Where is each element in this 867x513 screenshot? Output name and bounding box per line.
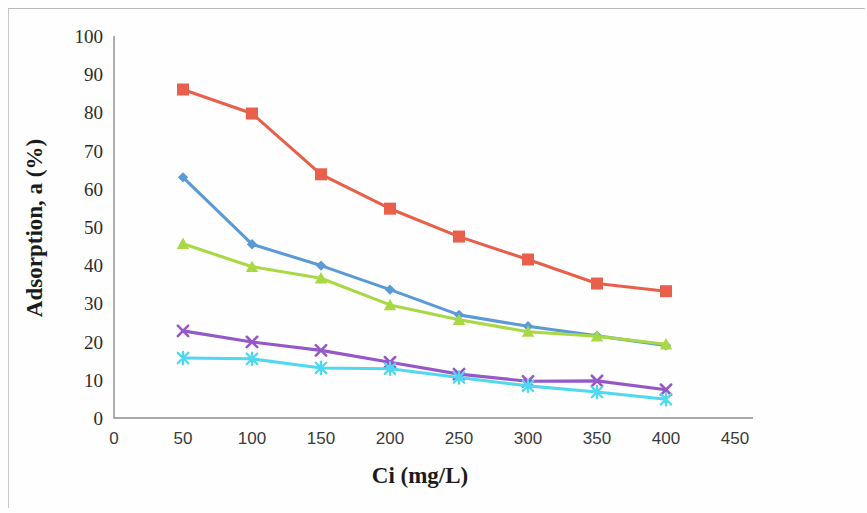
data-point-square [384,203,396,215]
y-tick-label: 20 [84,332,103,353]
data-point-triangle [177,238,189,249]
y-tick-label: 70 [84,141,103,162]
x-axis-title: Ci (mg/L) [372,463,468,488]
data-point-square [315,168,327,180]
x-tick-label: 150 [307,429,335,448]
x-tick-label: 50 [174,429,193,448]
adsorption-line-chart: 0102030405060708090100 05010015020025030… [0,0,867,513]
series-line-zn [183,244,666,344]
y-tick-label: 10 [84,370,103,391]
y-axis-tick-labels: 0102030405060708090100 [75,26,104,429]
x-tick-label: 450 [721,429,749,448]
series-zn [177,238,672,350]
y-tick-label: 0 [94,408,104,429]
data-point-square [177,83,189,95]
series-line-cu [183,177,666,345]
data-point-diamond [385,284,395,294]
x-tick-label: 400 [652,429,680,448]
data-point-square [246,108,258,120]
y-tick-label: 90 [84,64,103,85]
x-tick-label: 350 [583,429,611,448]
x-tick-label: 300 [514,429,542,448]
x-axis-tick-labels: 050100150200250300350400450 [109,429,749,448]
x-tick-label: 100 [238,429,266,448]
y-tick-label: 60 [84,179,103,200]
chart-page: 0102030405060708090100 05010015020025030… [0,0,867,513]
data-point-square [522,253,534,265]
y-tick-label: 100 [75,26,104,47]
y-tick-label: 50 [84,217,103,238]
y-tick-label: 40 [84,255,103,276]
data-point-square [660,285,672,297]
data-point-square [591,278,603,290]
y-tick-label: 30 [84,293,103,314]
series-cd [178,352,671,406]
y-axis-title: Adsorption, a (%) [22,139,47,317]
x-tick-label: 200 [376,429,404,448]
y-tick-label: 80 [84,102,103,123]
data-point-diamond [316,260,326,270]
series-group [177,83,672,405]
x-tick-label: 0 [109,429,118,448]
data-point-square [453,231,465,243]
x-tick-label: 250 [445,429,473,448]
series-line-pb [183,90,666,292]
